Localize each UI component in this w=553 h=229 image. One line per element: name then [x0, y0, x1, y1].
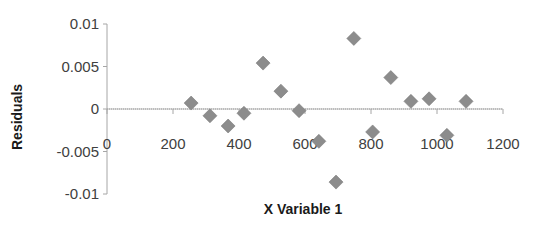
data-point-diamond [256, 56, 270, 70]
data-point-diamond [347, 31, 361, 45]
data-point-diamond [329, 175, 343, 189]
y-tick-label: -0.005 [56, 143, 99, 160]
data-point-diamond [203, 109, 217, 123]
x-tick-label: 0 [103, 135, 111, 152]
y-axis-title: Residuals [9, 84, 25, 150]
x-axis: 020040060080010001200 [103, 109, 520, 152]
data-point-diamond [384, 71, 398, 85]
y-tick-label: 0.01 [70, 15, 99, 32]
y-tick-label: 0 [91, 100, 99, 117]
data-point-diamond [292, 104, 306, 118]
data-point-diamond [274, 84, 288, 98]
x-tick-label: 400 [226, 135, 251, 152]
chart-svg: 0.010.0050-0.005-0.01 020040060080010001… [0, 0, 553, 229]
x-tick-label: 200 [160, 135, 185, 152]
x-tick-label: 1200 [486, 135, 519, 152]
data-point-diamond [221, 119, 235, 133]
y-tick-label: -0.01 [65, 185, 99, 202]
y-tick-label: 0.005 [61, 58, 99, 75]
data-point-diamond [404, 94, 418, 108]
data-point-diamond [459, 94, 473, 108]
data-points [184, 31, 473, 189]
data-point-diamond [422, 92, 436, 106]
residual-plot: 0.010.0050-0.005-0.01 020040060080010001… [0, 0, 553, 229]
y-axis: 0.010.0050-0.005-0.01 [56, 15, 107, 202]
x-axis-title: X Variable 1 [264, 201, 343, 217]
data-point-diamond [184, 96, 198, 110]
